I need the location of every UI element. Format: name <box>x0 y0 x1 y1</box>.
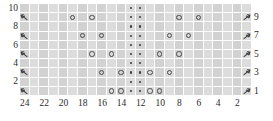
chart-cell <box>39 4 49 13</box>
chart-cell <box>175 59 185 68</box>
chart-cell <box>242 50 252 59</box>
chart-cell <box>175 50 185 59</box>
chart-cell <box>20 59 30 68</box>
chart-cell <box>213 87 223 96</box>
chart-cell <box>78 50 88 59</box>
row-number-label: 8 <box>2 22 18 31</box>
column-number-label: 18 <box>78 97 88 110</box>
chart-cell <box>194 68 204 77</box>
chart-cell <box>59 78 69 87</box>
chart-cell <box>146 87 156 96</box>
chart-cell <box>107 4 117 13</box>
chart-cell <box>97 59 107 68</box>
chart-cell <box>20 41 30 50</box>
chart-cell <box>233 68 243 77</box>
chart-cell <box>20 87 30 96</box>
right-decrease-icon <box>242 13 251 21</box>
chart-cell <box>184 32 194 41</box>
chart-cell <box>204 50 214 59</box>
chart-cell <box>39 32 49 41</box>
chart-cell <box>126 22 136 31</box>
chart-cell <box>223 68 233 77</box>
chart-cell <box>68 78 78 87</box>
purl-dot-icon <box>139 62 141 64</box>
purl-dot-icon <box>130 16 132 18</box>
chart-cell <box>194 59 204 68</box>
chart-cell <box>165 68 175 77</box>
chart-cell <box>155 78 165 87</box>
yarn-over-icon <box>80 33 85 38</box>
chart-row <box>20 4 252 13</box>
purl-dot-icon <box>130 44 132 46</box>
chart-cell <box>233 22 243 31</box>
chart-cell <box>97 50 107 59</box>
chart-cell <box>213 68 223 77</box>
left-decrease-icon <box>20 50 29 58</box>
chart-cell <box>20 50 30 59</box>
chart-cell <box>194 32 204 41</box>
chart-cell <box>117 22 127 31</box>
chart-cell <box>88 87 98 96</box>
chart-cell <box>204 68 214 77</box>
chart-cell <box>88 59 98 68</box>
chart-cell <box>155 41 165 50</box>
chart-cell <box>204 4 214 13</box>
chart-cell <box>155 4 165 13</box>
chart-cell <box>49 78 59 87</box>
chart-cell <box>233 78 243 87</box>
chart-cell <box>242 41 252 50</box>
chart-cell <box>88 50 98 59</box>
right-decrease-icon <box>242 87 251 95</box>
right-decrease-icon <box>242 50 251 58</box>
column-number-label: 10 <box>155 97 165 110</box>
chart-cell <box>126 87 136 96</box>
chart-cell <box>165 50 175 59</box>
chart-cell <box>117 68 127 77</box>
column-number-label: 16 <box>97 97 107 110</box>
row-number-label: 10 <box>2 4 18 13</box>
chart-cell <box>59 59 69 68</box>
chart-cell <box>136 22 146 31</box>
chart-cell <box>184 87 194 96</box>
row-number-label: 6 <box>2 41 18 50</box>
chart-cell <box>213 41 223 50</box>
chart-cell <box>107 50 117 59</box>
chart-cell <box>165 13 175 22</box>
chart-cell <box>59 4 69 13</box>
chart-cell <box>136 78 146 87</box>
chart-cell <box>194 78 204 87</box>
knitting-chart: 24222018161412108642 10987654321 <box>0 0 273 121</box>
yarn-over-icon <box>118 88 123 93</box>
chart-cell <box>39 50 49 59</box>
purl-dot-icon <box>139 90 141 92</box>
chart-cell <box>88 13 98 22</box>
purl-dot-icon <box>130 53 132 55</box>
chart-cell <box>233 50 243 59</box>
chart-row <box>20 32 252 41</box>
chart-cell <box>68 4 78 13</box>
chart-cell <box>223 50 233 59</box>
yarn-over-icon <box>70 15 75 20</box>
purl-dot-icon <box>139 81 141 83</box>
chart-cell <box>49 59 59 68</box>
chart-cell <box>146 41 156 50</box>
chart-cell <box>146 68 156 77</box>
chart-cell <box>155 68 165 77</box>
purl-dot-icon <box>139 44 141 46</box>
row-number-label: 5 <box>254 50 270 59</box>
chart-row <box>20 22 252 31</box>
chart-cell <box>233 32 243 41</box>
chart-cell <box>242 68 252 77</box>
chart-cell <box>194 13 204 22</box>
chart-cell <box>213 59 223 68</box>
purl-dot-icon <box>130 35 132 37</box>
chart-cell <box>233 41 243 50</box>
chart-cell <box>223 4 233 13</box>
chart-cell <box>175 32 185 41</box>
chart-row <box>20 59 252 68</box>
chart-cell <box>146 4 156 13</box>
right-decrease-icon <box>242 32 251 40</box>
chart-cell <box>165 32 175 41</box>
chart-cell <box>204 87 214 96</box>
purl-dot-icon <box>139 53 141 55</box>
